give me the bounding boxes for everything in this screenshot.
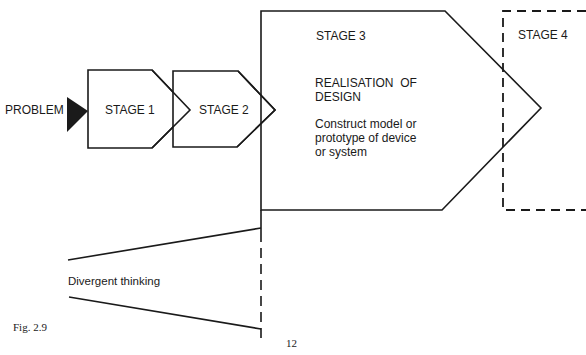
stage-3-desc-line2: prototype of device bbox=[315, 131, 416, 145]
stage-3-title-line2: DESIGN bbox=[315, 90, 361, 104]
problem-label: PROBLEM bbox=[5, 103, 64, 117]
stage-3-label: STAGE 3 bbox=[316, 29, 366, 43]
process-diagram bbox=[0, 0, 586, 355]
stage-3-desc-line3: or system bbox=[315, 145, 367, 159]
divergent-lower-line bbox=[69, 297, 261, 329]
stage-1-label: STAGE 1 bbox=[105, 103, 155, 117]
stage-3-desc-line1: Construct model or bbox=[315, 117, 416, 131]
divergent-thinking-label: Divergent thinking bbox=[68, 274, 160, 288]
page-number: 12 bbox=[286, 336, 297, 350]
figure-caption: Fig. 2.9 bbox=[13, 320, 47, 334]
problem-arrow-icon bbox=[67, 97, 88, 132]
stage-3-shape bbox=[261, 11, 541, 210]
divergent-upper-line bbox=[68, 228, 261, 260]
stage-4-label: STAGE 4 bbox=[518, 28, 568, 42]
stage-3-title-line1: REALISATION OF bbox=[315, 76, 417, 90]
stage-2-label: STAGE 2 bbox=[199, 103, 249, 117]
